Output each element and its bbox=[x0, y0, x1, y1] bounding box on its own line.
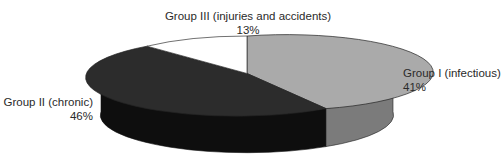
label-group2-percent: 46% bbox=[0, 109, 93, 123]
label-group1-name: Group I (infectious) bbox=[403, 66, 501, 80]
label-group1-percent: 41% bbox=[403, 80, 501, 94]
label-group3-name: Group III (injuries and accidents) bbox=[118, 9, 378, 23]
label-group3: Group III (injuries and accidents) 13% bbox=[118, 9, 378, 37]
label-group1: Group I (infectious) 41% bbox=[403, 66, 501, 94]
label-group3-percent: 13% bbox=[118, 23, 378, 37]
pie-chart: Group III (injuries and accidents) 13% G… bbox=[0, 0, 501, 160]
label-group2: Group II (chronic) 46% bbox=[0, 95, 93, 123]
label-group2-name: Group II (chronic) bbox=[0, 95, 93, 109]
